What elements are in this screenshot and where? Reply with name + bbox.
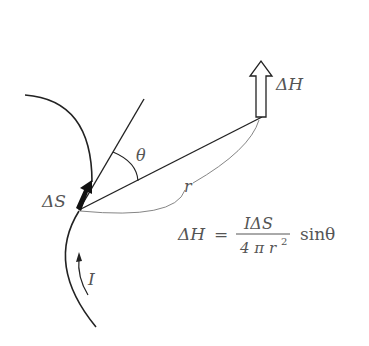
current-arrow-head-icon	[76, 252, 82, 262]
formula-denominator: 4 π r	[239, 239, 277, 257]
r-distance-arc	[80, 120, 259, 213]
delta-s-label: ΔS	[41, 191, 66, 211]
delta-h-label: ΔH	[275, 74, 304, 94]
current-label: I	[87, 269, 95, 289]
r-label: r	[184, 177, 193, 196]
formula-sin-theta: sinθ	[300, 224, 335, 244]
formula-numerator: IΔS	[243, 214, 273, 233]
formula-equals: =	[214, 224, 228, 244]
theta-label: θ	[136, 146, 146, 165]
theta-angle-arc	[113, 152, 138, 181]
formula-denominator-exponent: 2	[281, 236, 287, 247]
formula-lhs: ΔH	[177, 224, 206, 244]
biot-savart-diagram: ΔS ΔH θ r I ΔH = IΔS 4 π r 2 sinθ	[0, 0, 369, 346]
current-direction-arrow	[79, 258, 88, 295]
biot-savart-formula: ΔH = IΔS 4 π r 2 sinθ	[177, 214, 335, 257]
upper-conductor-curve	[25, 95, 92, 182]
delta-s-arrow-icon	[76, 180, 92, 211]
delta-h-arrow-icon	[250, 61, 272, 117]
